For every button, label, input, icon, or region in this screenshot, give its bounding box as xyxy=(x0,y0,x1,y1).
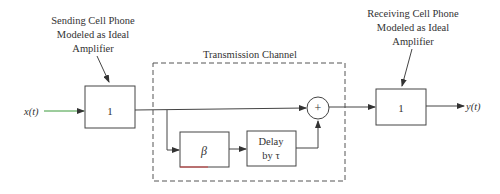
input-signal-label: x(t) xyxy=(23,106,39,118)
svg-text:Amplifier: Amplifier xyxy=(72,43,114,54)
receiving-label-pointer-arrow xyxy=(402,49,412,86)
block-diagram: Sending Cell Phone Modeled as Ideal Ampl… xyxy=(0,0,500,194)
delay-label-line1: Delay xyxy=(258,136,284,147)
delay-label-line2: by τ xyxy=(262,150,279,161)
sending-label-pointer-arrow xyxy=(97,56,109,82)
receiving-phone-label: Receiving Cell Phone Modeled as Ideal Am… xyxy=(367,8,459,47)
svg-text:Receiving Cell Phone: Receiving Cell Phone xyxy=(367,8,459,19)
sending-gain: 1 xyxy=(107,105,113,117)
sending-phone-label: Sending Cell Phone Modeled as Ideal Ampl… xyxy=(51,15,135,54)
transmission-channel-box xyxy=(153,63,345,181)
direct-path-line xyxy=(135,108,306,110)
receiving-gain: 1 xyxy=(398,102,404,114)
svg-text:Sending Cell Phone: Sending Cell Phone xyxy=(51,15,135,26)
summer-plus-symbol: + xyxy=(315,101,322,115)
svg-text:Amplifier: Amplifier xyxy=(392,36,434,47)
svg-text:Modeled as Ideal: Modeled as Ideal xyxy=(57,29,129,40)
channel-title: Transmission Channel xyxy=(203,49,297,60)
beta-symbol: β xyxy=(200,144,207,158)
echo-branch-line xyxy=(167,110,179,150)
delay-to-summer-arrow xyxy=(296,121,318,148)
svg-text:Modeled as Ideal: Modeled as Ideal xyxy=(377,22,449,33)
output-signal-label: y(t) xyxy=(465,101,481,113)
